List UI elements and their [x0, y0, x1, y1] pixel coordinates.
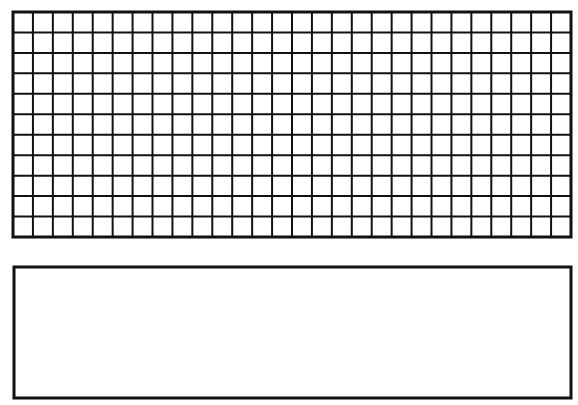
blank-answer-box — [14, 267, 571, 398]
diagram-canvas — [0, 0, 578, 405]
cell-grid — [13, 12, 571, 237]
diagram-figure — [0, 0, 578, 405]
